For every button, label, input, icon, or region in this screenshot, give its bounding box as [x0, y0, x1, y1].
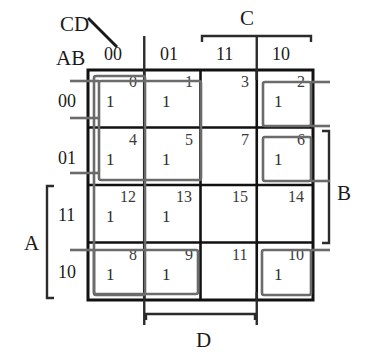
- group-wrap-cell-2: [263, 82, 311, 126]
- group-wrap-cell-6: [263, 137, 311, 181]
- group-wrap-cell-10: [262, 250, 311, 295]
- kmap-vector-overlay: [0, 0, 366, 357]
- bracket-a: [47, 186, 54, 298]
- group-quad-0-1-4-5: [99, 81, 201, 180]
- bracket-b: [322, 131, 329, 243]
- bracket-d: [146, 314, 255, 320]
- karnaugh-map-figure: AB CD 00 01 11 10 00 01 11 10 C D A B 0 …: [0, 0, 366, 357]
- axis-divider-slash: [88, 18, 117, 47]
